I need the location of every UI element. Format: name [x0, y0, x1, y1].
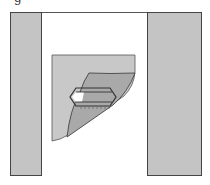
right-panel	[148, 13, 202, 176]
folded-sheet-diagram	[0, 0, 210, 185]
left-panel	[11, 13, 42, 176]
